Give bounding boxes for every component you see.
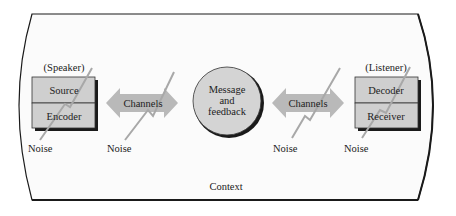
- message-label-line1: Message: [209, 84, 246, 95]
- listener-label: (Listener): [365, 62, 407, 74]
- right-channel-label: Channels: [288, 98, 327, 109]
- context-label: Context: [209, 181, 242, 192]
- left-channel-label: Channels: [123, 98, 162, 109]
- noise-label-left-channel: Noise: [107, 143, 132, 154]
- decoder-label: Decoder: [368, 85, 404, 96]
- noise-label-speaker: Noise: [28, 143, 53, 154]
- noise-label-listener: Noise: [344, 143, 369, 154]
- message-label-line3: feedback: [208, 106, 247, 117]
- speaker-label: (Speaker): [44, 62, 85, 74]
- encoder-label: Encoder: [47, 111, 82, 122]
- noise-label-right-channel: Noise: [273, 143, 298, 154]
- communication-model-diagram: (Speaker) Source Encoder Noise Channels …: [0, 0, 456, 216]
- source-label: Source: [49, 85, 78, 96]
- message-label-line2: and: [219, 95, 235, 106]
- receiver-label: Receiver: [367, 111, 405, 122]
